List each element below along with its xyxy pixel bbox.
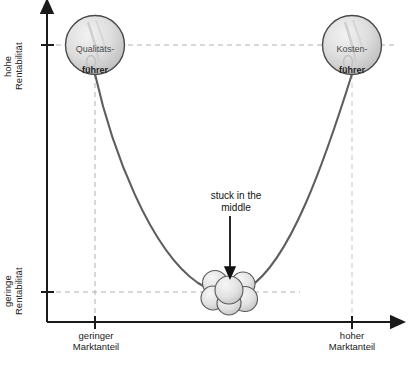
cluster-bubble-front: [215, 276, 243, 304]
bubble-quality-leader[interactable]: [66, 16, 125, 75]
x-axis-label-low: geringer Marktanteil: [52, 330, 140, 352]
bubble-cost-leader[interactable]: [323, 16, 382, 75]
chart-svg: [0, 0, 416, 368]
y-axis-label-high: hohe Rentabilität: [2, 18, 44, 114]
y-axis-label-low: geringe Rentabilität: [2, 248, 44, 334]
diagram-canvas: Qualitäts- führer Kosten- führer stuck i…: [0, 0, 416, 368]
profitability-u-curve: [95, 74, 352, 293]
x-axis-label-high: hoher Marktanteil: [312, 330, 392, 352]
stuck-in-the-middle-annotation: stuck in the middle: [180, 190, 292, 214]
cluster-stuck-in-the-middle[interactable]: [201, 271, 258, 316]
